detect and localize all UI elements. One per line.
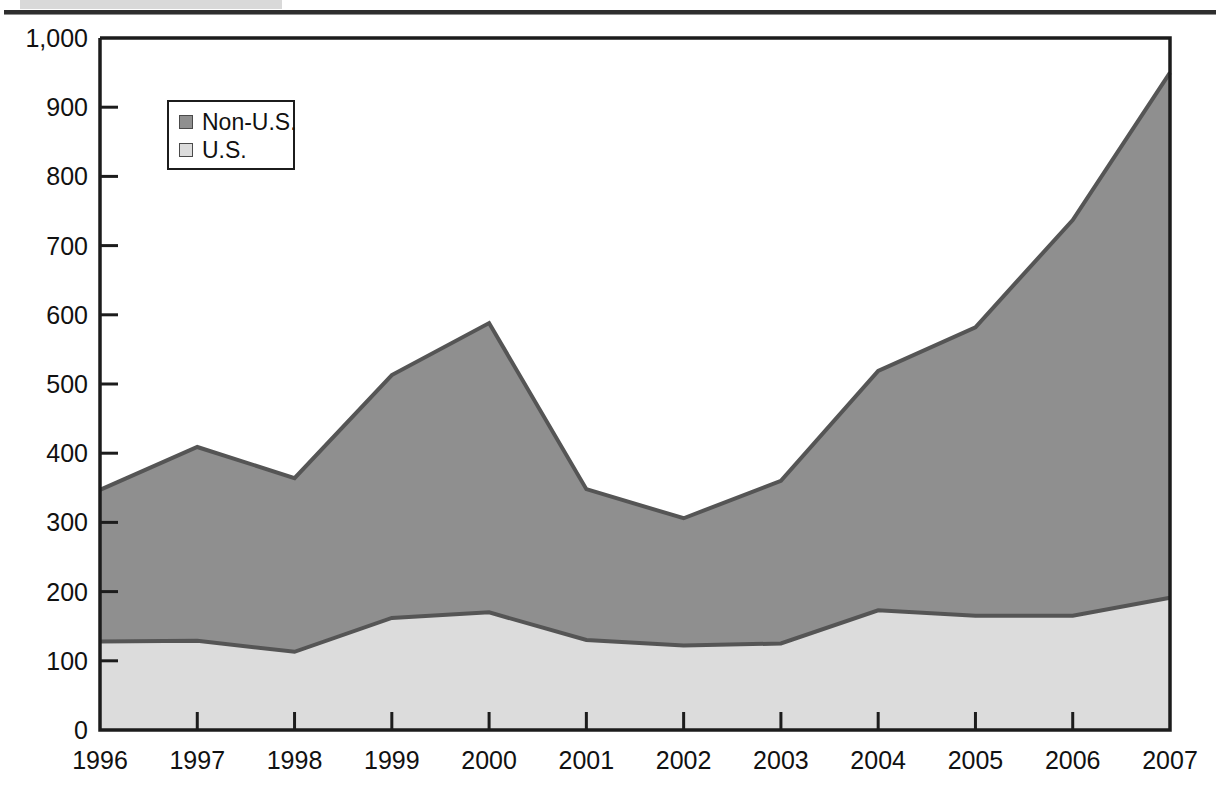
y-axis-tick-label: 1,000 xyxy=(0,26,88,51)
y-axis-tick-label: 100 xyxy=(0,648,88,673)
y-axis-tick-label: 700 xyxy=(0,233,88,258)
x-axis-tick-label: 2002 xyxy=(656,748,712,773)
y-axis-tick-label: 300 xyxy=(0,510,88,535)
legend-swatch-us xyxy=(179,143,193,157)
legend-label-us: U.S. xyxy=(202,139,247,162)
y-axis-tick-label: 500 xyxy=(0,372,88,397)
x-axis-tick-label: 2005 xyxy=(948,748,1004,773)
x-axis-tick-label: 2000 xyxy=(461,748,517,773)
y-axis-tick-label: 600 xyxy=(0,302,88,327)
stacked-area-chart: 01002003004005006007008009001,000 199619… xyxy=(0,0,1220,791)
legend-swatch-non-us xyxy=(179,115,193,129)
x-axis-tick-label: 2007 xyxy=(1142,748,1198,773)
x-axis-tick-label: 1999 xyxy=(364,748,420,773)
x-axis-tick-label: 2004 xyxy=(850,748,906,773)
x-axis-tick-label: 2003 xyxy=(753,748,809,773)
x-axis-tick-label: 1998 xyxy=(267,748,323,773)
x-axis-tick-label: 1996 xyxy=(72,748,128,773)
y-axis-tick-label: 800 xyxy=(0,164,88,189)
legend-entry-non-us: Non-U.S. xyxy=(179,108,293,136)
legend-entry-us: U.S. xyxy=(179,136,293,164)
chart-areas-group xyxy=(100,73,1170,730)
chart-legend: Non-U.S. U.S. xyxy=(167,100,295,170)
legend-label-non-us: Non-U.S. xyxy=(202,111,297,134)
y-axis-tick-label: 900 xyxy=(0,95,88,120)
x-axis-tick-label: 2006 xyxy=(1045,748,1101,773)
y-axis-tick-label: 0 xyxy=(0,718,88,743)
y-axis-tick-label: 400 xyxy=(0,441,88,466)
x-axis-tick-label: 2001 xyxy=(559,748,615,773)
x-axis-tick-label: 1997 xyxy=(169,748,225,773)
y-axis-tick-label: 200 xyxy=(0,579,88,604)
